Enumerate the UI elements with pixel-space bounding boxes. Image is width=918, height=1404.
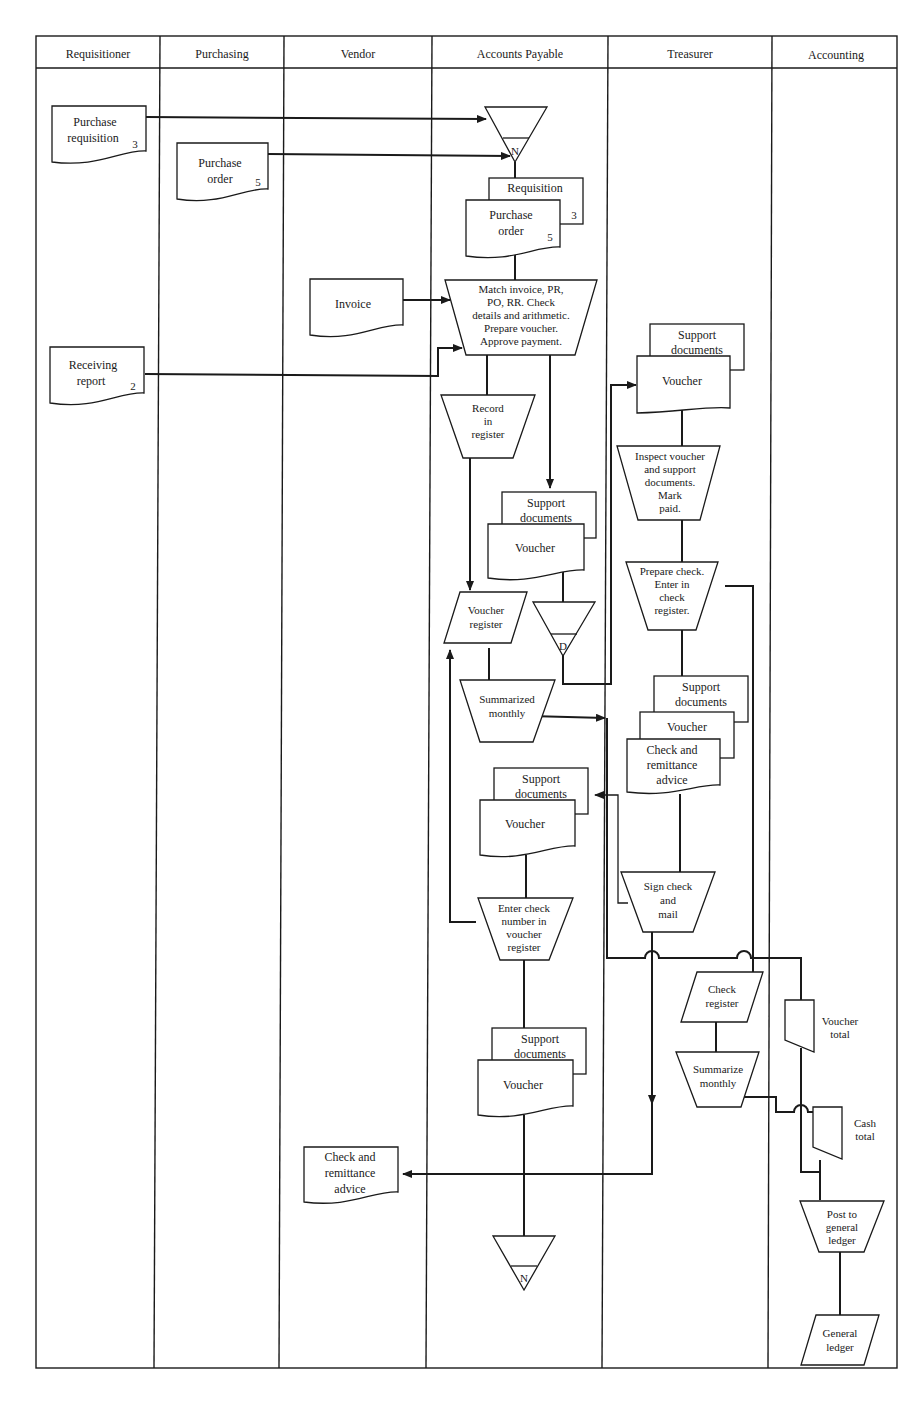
svg-text:details and arithmetic.: details and arithmetic. — [472, 309, 570, 321]
svg-text:ledger: ledger — [828, 1234, 856, 1246]
svg-text:Voucher: Voucher — [505, 817, 545, 831]
svg-text:Invoice: Invoice — [335, 297, 371, 311]
svg-text:order: order — [498, 224, 523, 238]
process-prepare-check: Prepare check. Enter in check register. — [626, 562, 718, 630]
svg-text:documents: documents — [675, 695, 727, 709]
svg-text:Support: Support — [522, 772, 561, 786]
svg-text:Summarized: Summarized — [479, 693, 535, 705]
tape-voucher-total: Voucher total — [785, 1000, 859, 1052]
svg-text:D: D — [559, 640, 567, 652]
svg-text:Prepare check.: Prepare check. — [640, 565, 705, 577]
svg-text:Voucher: Voucher — [468, 604, 505, 616]
svg-text:remittance: remittance — [325, 1166, 376, 1180]
svg-text:Requisition: Requisition — [507, 181, 562, 195]
svg-text:advice: advice — [656, 773, 687, 787]
svg-text:3: 3 — [132, 138, 138, 150]
svg-text:documents: documents — [514, 1047, 566, 1061]
file-voucher-register: Voucher register — [444, 592, 527, 643]
lane-header-treasurer: Treasurer — [667, 47, 713, 61]
process-post-general-ledger: Post to general ledger — [800, 1201, 884, 1252]
svg-text:Cash: Cash — [854, 1117, 877, 1129]
svg-text:Purchase: Purchase — [73, 115, 116, 129]
svg-text:Enter check: Enter check — [498, 902, 551, 914]
svg-text:register.: register. — [654, 604, 689, 616]
svg-text:mail: mail — [658, 908, 678, 920]
tape-cash-total: Cash total — [813, 1107, 877, 1159]
svg-text:Support: Support — [521, 1032, 560, 1046]
lane-header-vendor: Vendor — [341, 47, 376, 61]
svg-text:Record: Record — [472, 402, 504, 414]
svg-text:remittance: remittance — [647, 758, 698, 772]
svg-text:register: register — [508, 941, 541, 953]
svg-text:Purchase: Purchase — [489, 208, 532, 222]
process-summarize-monthly: Summarize monthly — [676, 1052, 759, 1107]
svg-text:register: register — [472, 428, 505, 440]
svg-text:Match invoice, PR,: Match invoice, PR, — [479, 283, 564, 295]
svg-text:voucher: voucher — [506, 928, 542, 940]
flowchart-canvas: Requisitioner Purchasing Vendor Accounts… — [0, 0, 918, 1404]
svg-text:Voucher: Voucher — [515, 541, 555, 555]
document-purchase-requisition: Purchase requisition 3 — [52, 106, 146, 163]
svg-text:Inspect voucher: Inspect voucher — [635, 450, 705, 462]
svg-text:Support: Support — [678, 328, 717, 342]
svg-text:total: total — [830, 1028, 850, 1040]
lane-header-accounting: Accounting — [808, 48, 864, 62]
svg-text:General: General — [823, 1327, 858, 1339]
document-check-remittance-tr: Check and remittance advice — [627, 739, 720, 794]
svg-text:documents: documents — [520, 511, 572, 525]
svg-text:documents: documents — [671, 343, 723, 357]
process-enter-check-number: Enter check number in voucher register — [478, 898, 573, 960]
svg-text:general: general — [826, 1221, 858, 1233]
svg-text:Voucher: Voucher — [822, 1015, 859, 1027]
svg-text:Mark: Mark — [658, 489, 682, 501]
svg-text:Support: Support — [682, 680, 721, 694]
file-n-bottom: N — [493, 1236, 555, 1290]
svg-text:total: total — [855, 1130, 875, 1142]
svg-text:order: order — [207, 172, 232, 186]
svg-text:5: 5 — [255, 176, 261, 188]
file-general-ledger: General ledger — [801, 1315, 879, 1365]
svg-text:register: register — [470, 618, 503, 630]
svg-text:Enter in: Enter in — [654, 578, 690, 590]
document-check-remittance-vendor: Check and remittance advice — [304, 1147, 398, 1203]
lane-header-purchasing: Purchasing — [195, 47, 248, 61]
svg-text:and support: and support — [644, 463, 696, 475]
svg-text:Check and: Check and — [647, 743, 698, 757]
process-sign-check: Sign check and mail — [621, 872, 715, 932]
svg-text:report: report — [77, 374, 106, 388]
svg-text:Support: Support — [527, 496, 566, 510]
process-record-in-register: Record in register — [441, 395, 535, 458]
svg-text:Voucher: Voucher — [662, 374, 702, 388]
file-n-top: N — [485, 107, 547, 162]
file-check-register: Check register — [681, 972, 763, 1022]
document-voucher-ap-1: Voucher — [488, 524, 584, 580]
svg-text:advice: advice — [334, 1182, 365, 1196]
process-inspect-voucher: Inspect voucher and support documents. M… — [617, 446, 720, 520]
svg-text:Check and: Check and — [325, 1150, 376, 1164]
svg-text:check: check — [659, 591, 685, 603]
svg-text:Summarize: Summarize — [693, 1063, 743, 1075]
svg-text:Sign check: Sign check — [644, 880, 693, 892]
svg-text:register: register — [706, 997, 739, 1009]
svg-text:ledger: ledger — [826, 1341, 854, 1353]
svg-text:Approve payment.: Approve payment. — [480, 335, 562, 347]
svg-text:number in: number in — [502, 915, 547, 927]
lane-header-accounts-payable: Accounts Payable — [477, 47, 563, 61]
document-receiving-report: Receiving report 2 — [50, 347, 144, 405]
svg-text:Prepare voucher.: Prepare voucher. — [484, 322, 558, 334]
svg-text:PO, RR. Check: PO, RR. Check — [487, 296, 555, 308]
svg-text:N: N — [520, 1272, 528, 1284]
svg-text:2: 2 — [130, 380, 136, 392]
svg-text:5: 5 — [547, 231, 553, 243]
svg-text:N: N — [511, 145, 519, 157]
document-voucher-ap-3: Voucher — [478, 1060, 573, 1117]
svg-text:Voucher: Voucher — [667, 720, 707, 734]
process-match-invoice: Match invoice, PR, PO, RR. Check details… — [445, 280, 597, 355]
document-po-copy: Purchase order 5 — [466, 200, 560, 258]
document-voucher-ap-2: Voucher — [480, 800, 575, 857]
document-voucher-tr-1: Voucher — [637, 356, 730, 413]
svg-text:in: in — [484, 415, 493, 427]
document-purchase-order: Purchase order 5 — [177, 143, 268, 201]
file-d: D — [533, 602, 595, 656]
svg-text:3: 3 — [571, 209, 577, 221]
